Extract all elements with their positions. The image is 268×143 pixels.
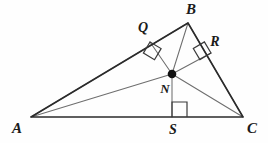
vertex-label-c: C <box>247 120 258 136</box>
geometry-figure: A B C Q R S N <box>0 0 268 143</box>
right-angle-square-s <box>172 102 187 117</box>
foot-label-q: Q <box>138 20 148 35</box>
geometry-canvas: A B C Q R S N <box>0 0 268 143</box>
interior-point-label-n: N <box>159 81 170 96</box>
cevian-a-to-n <box>31 74 172 117</box>
right-angle-marker-s <box>172 102 187 117</box>
foot-label-s: S <box>169 122 177 137</box>
incenter-dot <box>168 70 177 79</box>
inradius-n-to-q <box>150 42 172 74</box>
vertex-label-a: A <box>11 120 22 136</box>
cevian-c-to-n <box>172 74 243 117</box>
foot-label-r: R <box>209 34 219 49</box>
vertex-label-b: B <box>185 1 196 17</box>
